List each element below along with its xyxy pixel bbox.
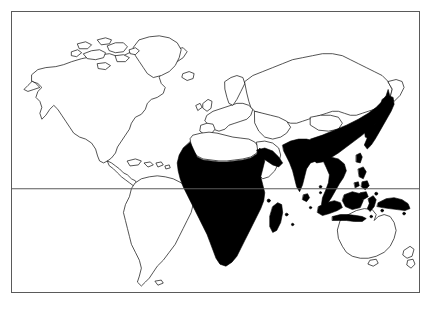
region-falkland-islands: [155, 280, 163, 285]
map-frame: [11, 11, 420, 293]
region-iceland: [182, 72, 194, 81]
region-caribbean-islands: [127, 159, 170, 169]
shaded-region-taiwan: [356, 153, 362, 163]
region-south-america: [123, 176, 193, 286]
world-map-svg: [12, 12, 419, 292]
shaded-region-madagascar: [270, 203, 283, 233]
shaded-region-sulawesi: [367, 196, 376, 212]
shaded-region-sri-lanka: [303, 194, 310, 202]
shaded-region-borneo: [342, 192, 363, 210]
region-north-africa-sahara: [190, 132, 259, 161]
region-scandinavia: [225, 76, 245, 106]
shaded-region-new-guinea: [377, 198, 410, 211]
region-tasmania: [368, 259, 378, 266]
figure-root: [0, 0, 433, 310]
region-new-zealand: [403, 246, 415, 268]
shaded-region-sumatra: [317, 201, 342, 216]
region-british-isles: [196, 99, 212, 111]
